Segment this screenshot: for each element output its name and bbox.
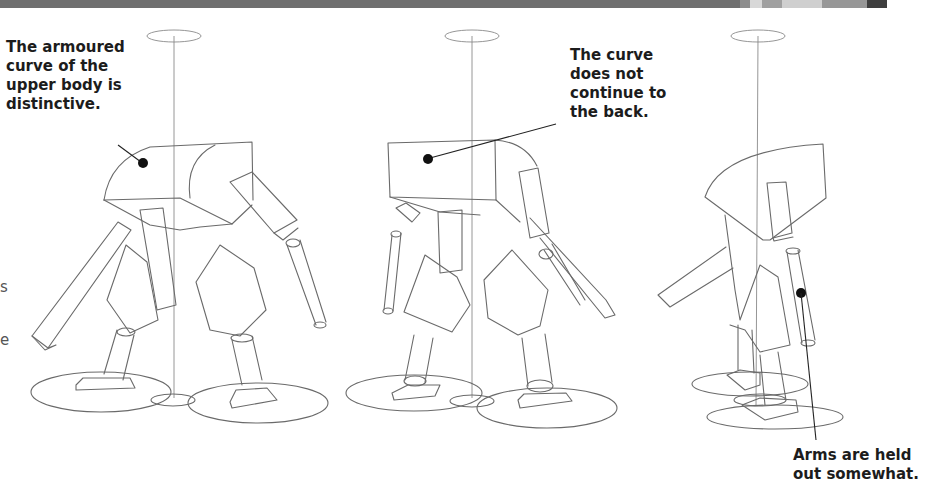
robot-sketch-illustration — [0, 0, 928, 494]
front-three-quarter-robot — [31, 30, 328, 423]
rear-three-quarter-robot — [346, 30, 617, 428]
side-view-robot — [658, 30, 843, 440]
